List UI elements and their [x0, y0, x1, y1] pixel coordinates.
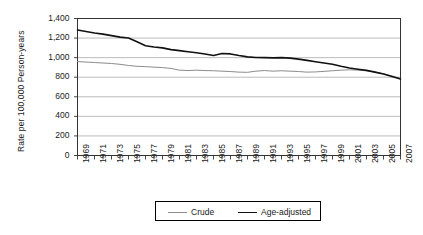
chart-figure: Rate per 100,000 Person-years 1,4001,200…: [0, 0, 423, 235]
chart-legend: Crude Age-adjusted: [155, 201, 321, 221]
gridlines: [78, 19, 401, 136]
plot-frame: [78, 19, 401, 156]
legend-entry-crude: Crude: [168, 202, 214, 222]
y-axis-ticks: [74, 19, 78, 156]
legend-line-icon-crude: [168, 212, 187, 213]
legend-label-age-adjusted: Age-adjusted: [261, 207, 311, 217]
data-series: [78, 30, 401, 79]
legend-label-crude: Crude: [191, 207, 214, 217]
legend-entry-age-adjusted: Age-adjusted: [238, 202, 311, 222]
x-axis-ticks: [78, 156, 401, 160]
plot-area: [0, 0, 423, 235]
legend-line-icon-age-adjusted: [238, 212, 257, 213]
